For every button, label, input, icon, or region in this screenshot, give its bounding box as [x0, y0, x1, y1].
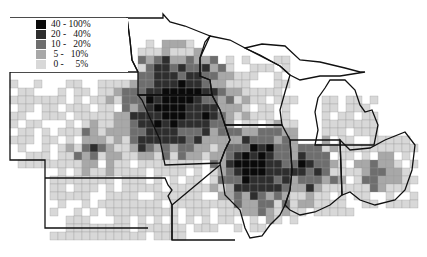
county-cell	[226, 72, 234, 80]
county-cell	[322, 128, 330, 136]
county-cell	[266, 152, 274, 160]
county-cell	[410, 160, 418, 168]
county-cell	[130, 136, 138, 144]
county-cell	[122, 208, 130, 216]
county-cell	[178, 152, 186, 160]
county-cell	[154, 216, 162, 224]
county-cell	[138, 216, 146, 224]
county-cell	[154, 208, 162, 216]
county-cell	[122, 192, 130, 200]
county-cell	[138, 136, 146, 144]
county-cell	[18, 136, 26, 144]
county-cell	[130, 200, 138, 208]
county-cell	[210, 64, 218, 72]
county-cell	[58, 144, 66, 152]
county-cell	[394, 200, 402, 208]
county-cell	[242, 104, 250, 112]
county-cell	[66, 232, 74, 240]
county-cell	[58, 184, 66, 192]
county-cell	[122, 104, 130, 112]
county-cell	[330, 176, 338, 184]
county-cell	[354, 160, 362, 168]
county-cell	[210, 144, 218, 152]
county-cell	[290, 184, 298, 192]
county-cell	[26, 128, 34, 136]
county-cell	[322, 96, 330, 104]
county-cell	[106, 208, 114, 216]
county-cell	[338, 128, 346, 136]
county-cell	[234, 184, 242, 192]
county-cell	[122, 232, 130, 240]
county-cell	[250, 128, 258, 136]
county-cell	[74, 176, 82, 184]
county-cell	[170, 136, 178, 144]
county-cell	[74, 112, 82, 120]
county-cell	[146, 144, 154, 152]
county-cell	[250, 184, 258, 192]
county-cell	[266, 104, 274, 112]
county-cell	[106, 80, 114, 88]
county-cell	[122, 168, 130, 176]
county-cell	[138, 80, 146, 88]
county-cell	[234, 168, 242, 176]
county-cell	[330, 128, 338, 136]
county-cell	[130, 104, 138, 112]
county-cell	[98, 232, 106, 240]
county-cell	[106, 152, 114, 160]
county-cell	[178, 56, 186, 64]
county-cell	[130, 208, 138, 216]
county-cell	[26, 152, 34, 160]
county-cell	[178, 40, 186, 48]
county-cell	[346, 136, 354, 144]
county-cell	[122, 176, 130, 184]
county-cell	[98, 176, 106, 184]
legend-swatch	[36, 40, 46, 49]
county-cell	[314, 168, 322, 176]
county-cell	[258, 136, 266, 144]
county-cell	[378, 144, 386, 152]
county-cell	[282, 152, 290, 160]
county-cell	[74, 184, 82, 192]
county-cell	[194, 144, 202, 152]
county-cell	[162, 80, 170, 88]
county-cell	[82, 200, 90, 208]
county-cell	[18, 112, 26, 120]
county-cell	[146, 96, 154, 104]
county-cell	[378, 168, 386, 176]
county-cell	[218, 160, 226, 168]
county-cell	[242, 112, 250, 120]
county-cell	[250, 120, 258, 128]
legend-item: 40 - 100%	[36, 20, 91, 29]
county-cell	[178, 72, 186, 80]
county-cell	[82, 176, 90, 184]
county-cell	[394, 144, 402, 152]
county-cell	[242, 96, 250, 104]
county-cell	[346, 208, 354, 216]
county-cell	[218, 88, 226, 96]
county-cell	[106, 168, 114, 176]
county-cell	[114, 80, 122, 88]
county-cell	[234, 160, 242, 168]
county-cell	[290, 120, 298, 128]
county-cell	[170, 120, 178, 128]
county-cell	[146, 40, 154, 48]
county-cell	[378, 176, 386, 184]
county-cell	[106, 112, 114, 120]
county-cell	[234, 192, 242, 200]
county-cell	[282, 144, 290, 152]
county-cell	[250, 192, 258, 200]
county-cell	[234, 112, 242, 120]
county-cell	[58, 168, 66, 176]
county-cell	[258, 88, 266, 96]
county-cell	[114, 120, 122, 128]
county-cell	[330, 168, 338, 176]
county-cell	[258, 104, 266, 112]
county-cell	[178, 184, 186, 192]
county-cell	[186, 136, 194, 144]
county-cell	[34, 152, 42, 160]
county-cell	[178, 80, 186, 88]
county-cell	[122, 184, 130, 192]
county-cell	[170, 72, 178, 80]
county-cell	[58, 112, 66, 120]
county-cell	[258, 224, 266, 232]
